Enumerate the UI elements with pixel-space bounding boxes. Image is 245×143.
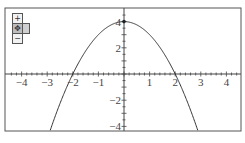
- x-tick-label: 1: [147, 76, 153, 88]
- vertex-point: [122, 20, 126, 24]
- plot-area[interactable]: −4−3−2−1123442−2−4: [0, 0, 245, 143]
- y-tick-label: −2: [109, 94, 121, 106]
- plot-frame: [5, 8, 241, 131]
- zoom-out-button[interactable]: −: [12, 33, 23, 44]
- x-tick-label: 4: [224, 76, 230, 88]
- x-tick-label: −3: [41, 76, 53, 88]
- x-tick-label: −4: [16, 76, 28, 88]
- y-tick-label: 2: [116, 42, 122, 54]
- x-tick-label: −1: [93, 76, 105, 88]
- x-tick-label: 3: [198, 76, 204, 88]
- y-tick-label: −4: [109, 120, 121, 132]
- pan-right-icon[interactable]: [22, 23, 30, 34]
